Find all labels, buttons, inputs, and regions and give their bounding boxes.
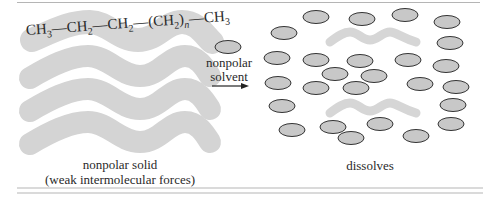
nonpolar-solid-waves bbox=[30, 56, 210, 144]
left-caption-line1: nonpolar solid bbox=[30, 157, 210, 173]
solvent-molecules bbox=[264, 9, 469, 145]
solvent-molecule-icon bbox=[215, 41, 241, 54]
right-caption: dissolves bbox=[320, 158, 420, 174]
formula-ch: —CH bbox=[92, 15, 129, 33]
formula-ch: —CH bbox=[51, 18, 88, 36]
solvent-label-line2: solvent bbox=[205, 69, 253, 85]
formula-sub: 3 bbox=[225, 16, 231, 27]
formula-ch: —CH bbox=[188, 8, 225, 26]
formula-ch: —(CH bbox=[133, 12, 175, 31]
left-caption-line2: (weak intermolecular forces) bbox=[30, 172, 210, 188]
formula-ch: CH bbox=[25, 21, 47, 38]
